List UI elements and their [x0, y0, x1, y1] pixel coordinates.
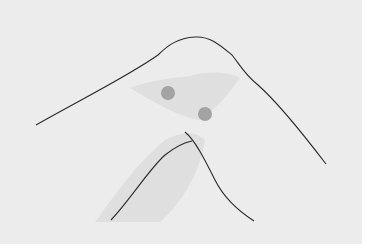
dot-1: [161, 86, 175, 100]
line-drawing: [0, 0, 367, 249]
shadow-upper: [130, 73, 240, 121]
dot-2: [198, 107, 212, 121]
shadow-lower: [95, 133, 205, 222]
